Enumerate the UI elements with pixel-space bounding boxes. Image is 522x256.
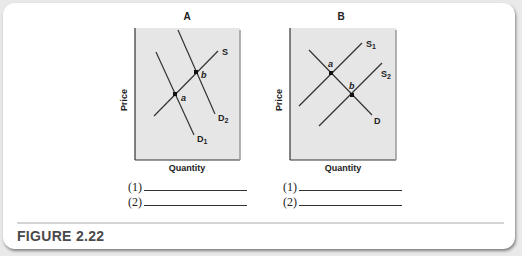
svg-text:b: b (349, 81, 355, 91)
panel-a-blank-1[interactable]: (1) (128, 180, 247, 195)
panel-b-blank-1[interactable]: (1) (283, 180, 402, 195)
panel-a: A Price Quantity S D1 D2 a b (119, 11, 240, 173)
panel-b-blank-2[interactable]: (2) (283, 195, 402, 210)
panel-a-blank-2[interactable]: (2) (128, 195, 247, 210)
panel-a-x-label: Quantity (169, 163, 206, 173)
figure-caption: FIGURE 2.22 (17, 228, 104, 244)
panel-a-point-b (194, 70, 198, 74)
svg-text:a: a (181, 93, 186, 103)
panel-b-point-a (329, 71, 333, 75)
svg-text:b: b (201, 70, 207, 80)
svg-text:S: S (222, 47, 228, 57)
panel-b-point-b (350, 93, 354, 97)
panel-b-title: B (337, 11, 344, 22)
panel-a-y-label: Price (119, 89, 129, 111)
panel-b-y-label: Price (274, 89, 284, 111)
panel-a-title: A (183, 11, 190, 22)
panel-a-point-a (173, 92, 177, 96)
panel-b-x-label: Quantity (325, 163, 362, 173)
panel-b-plot-area (290, 28, 396, 160)
figure-diagram: A Price Quantity S D1 D2 a b B Price Qua… (0, 0, 522, 256)
panel-b: B Price Quantity S1 S2 D a b (274, 11, 396, 173)
svg-text:a: a (328, 59, 333, 69)
svg-text:D: D (374, 116, 381, 126)
caption-divider (17, 222, 504, 224)
